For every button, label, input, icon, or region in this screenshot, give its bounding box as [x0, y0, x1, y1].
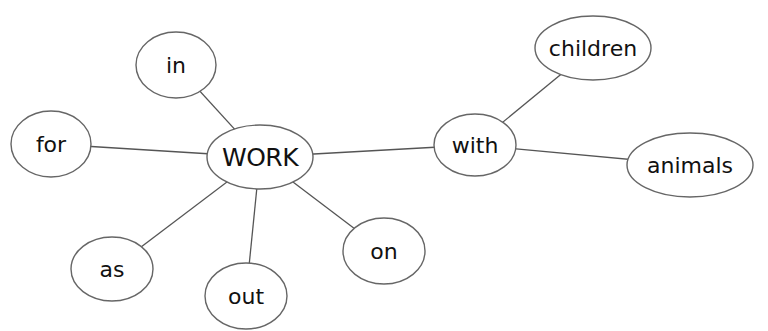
node-out: out: [205, 263, 287, 329]
node-label-children: children: [549, 36, 637, 61]
node-label-work: WORK: [222, 143, 299, 172]
node-label-as: as: [100, 257, 125, 282]
node-label-with: with: [452, 133, 499, 158]
node-label-animals: animals: [647, 153, 733, 178]
node-label-for: for: [36, 132, 67, 157]
mind-map: WORKinforasoutonwithchildrenanimals: [0, 0, 768, 331]
node-label-in: in: [166, 53, 186, 78]
node-for: for: [11, 111, 91, 177]
node-work: WORK: [207, 125, 313, 189]
node-on: on: [343, 218, 425, 284]
node-label-on: on: [370, 239, 397, 264]
nodes-layer: WORKinforasoutonwithchildrenanimals: [11, 16, 753, 329]
node-with: with: [434, 114, 516, 176]
node-animals: animals: [627, 133, 753, 197]
node-as: as: [71, 237, 153, 301]
node-children: children: [535, 16, 651, 80]
node-label-out: out: [228, 284, 264, 309]
node-in: in: [136, 32, 216, 98]
